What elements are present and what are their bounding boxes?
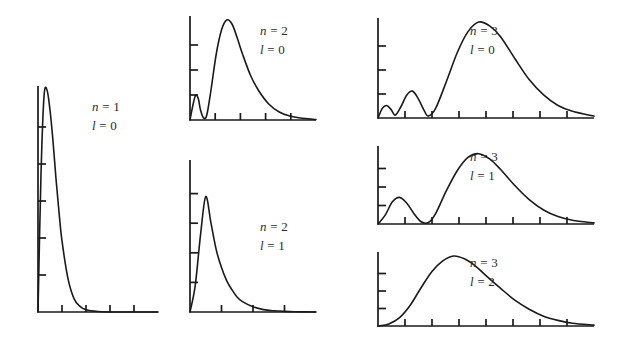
plot-panel-n3-l2: n = 3 l = 2 xyxy=(374,252,596,330)
panel-label-n3-l0: n = 3 l = 0 xyxy=(470,22,498,60)
axes-n2-l1 xyxy=(190,160,316,312)
plot-panel-n2-l0: n = 2 l = 0 xyxy=(186,16,318,124)
plot-svg-n2-l1 xyxy=(186,160,318,316)
plot-panel-n2-l1: n = 2 l = 1 xyxy=(186,160,318,316)
panel-label-n1-l0: n = 1 l = 0 xyxy=(92,98,120,136)
plot-panel-n3-l0: n = 3 l = 0 xyxy=(374,18,596,122)
panel-label-n2-l0: n = 2 l = 0 xyxy=(260,22,288,60)
plot-panel-n3-l1: n = 3 l = 1 xyxy=(374,146,596,228)
curve-group-n2-l1 xyxy=(190,196,316,312)
panel-label-n2-l1: n = 2 l = 1 xyxy=(260,218,288,256)
panel-label-n3-l1: n = 3 l = 1 xyxy=(470,148,498,186)
curve-group-n2-l0 xyxy=(190,20,316,120)
ticks-n1-l0 xyxy=(38,127,134,312)
panel-label-n3-l2: n = 3 l = 2 xyxy=(470,254,498,292)
radial-probability-figure: n = 1 l = 0 n = 2 l = 0 n = 2 l = 1 xyxy=(0,0,617,348)
plot-svg-n2-l0 xyxy=(186,16,318,124)
plot-panel-n1-l0: n = 1 l = 0 xyxy=(34,86,160,316)
